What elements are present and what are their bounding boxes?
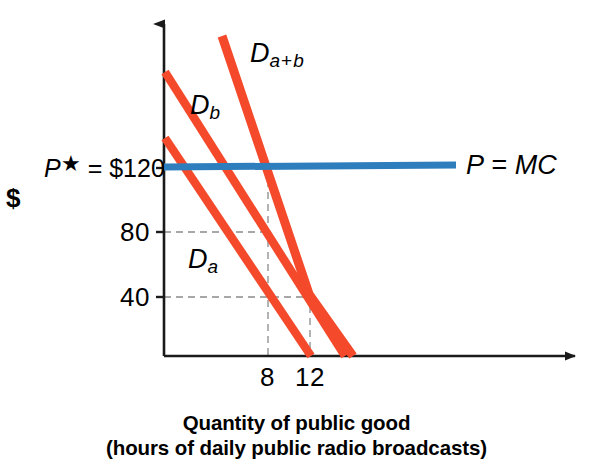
y-tick-label-pstar: P★ = $120 [44, 153, 165, 181]
db-base: D [190, 90, 210, 120]
pmc-equals: = [484, 150, 515, 180]
pmc-mc: MC [515, 150, 557, 180]
dab-base: D [250, 38, 270, 68]
curve-label-da-plus-b: Da+b [250, 40, 304, 70]
dab-subscript: a+b [270, 50, 304, 71]
dab-sub-b: b [293, 50, 304, 71]
y-axis-label: $ [6, 185, 20, 211]
db-subscript: b [210, 102, 221, 123]
pstar-value: = $120 [81, 154, 165, 182]
curve-label-db: Db [190, 92, 220, 122]
x-axis-title-line2: (hours of daily public radio broadcasts) [0, 435, 593, 460]
dab-sub-a: a [270, 50, 281, 71]
pstar-star: ★ [61, 151, 81, 176]
pstar-symbol: P [44, 154, 61, 182]
y-tick-label-80: 80 [120, 219, 150, 245]
da-base: D [188, 244, 208, 274]
x-axis-title: Quantity of public good (hours of daily … [0, 410, 593, 460]
dab-sub-plus: + [280, 50, 293, 71]
public-good-demand-figure: $ P★ = $120 80 40 8 12 Da+b Db Da P = MC… [0, 0, 593, 462]
curve-p-equals-mc [164, 165, 456, 167]
x-tick-label-8: 8 [260, 364, 275, 390]
x-axis-title-line1: Quantity of public good [0, 410, 593, 435]
da-subscript: a [208, 256, 219, 277]
curve-label-p-equals-mc: P = MC [466, 152, 557, 179]
pmc-p: P [466, 150, 484, 180]
y-tick-label-40: 40 [120, 284, 150, 310]
curve-label-da: Da [188, 246, 218, 276]
axis-lines [164, 24, 575, 356]
x-tick-label-12: 12 [295, 364, 325, 390]
